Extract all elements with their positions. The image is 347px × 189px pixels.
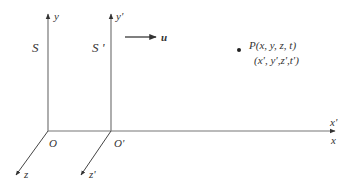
z-prime-axis-label: z' bbox=[89, 169, 96, 180]
frame-S-label: S bbox=[32, 41, 39, 54]
y-prime-axis-label: y' bbox=[116, 11, 123, 22]
point-coords-S: P(x, y, z, t) bbox=[249, 40, 296, 51]
x-axis-label: x bbox=[331, 135, 336, 146]
z-axis-label: z bbox=[24, 169, 28, 180]
frame-S-prime-label: S ' bbox=[92, 41, 105, 54]
origin-O-prime-label: O' bbox=[114, 138, 124, 149]
x-prime-axis-label: x' bbox=[330, 117, 337, 128]
point-P-dot bbox=[237, 48, 241, 52]
origin-O-label: O bbox=[49, 138, 57, 149]
axes-drawing bbox=[0, 0, 347, 189]
velocity-label: u bbox=[161, 32, 167, 43]
reference-frames-diagram: y y' S S ' u P(x, y, z, t) (x', y',z',t'… bbox=[0, 0, 347, 189]
y-axis-label: y bbox=[54, 11, 59, 22]
point-coords-S-prime: (x', y',z',t') bbox=[254, 55, 299, 66]
z-axis-S bbox=[16, 131, 48, 175]
z-axis-S-prime bbox=[81, 131, 111, 175]
